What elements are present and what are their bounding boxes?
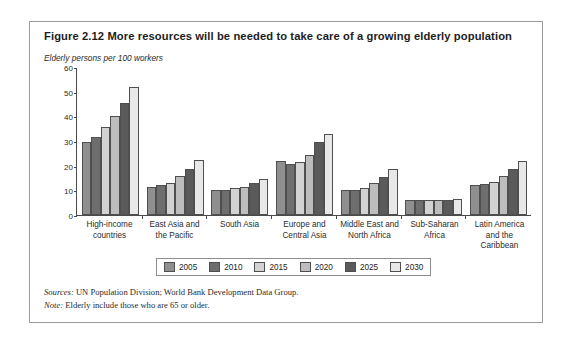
y-tick-mark <box>74 216 77 217</box>
bar-2015 <box>295 162 305 215</box>
legend-item[interactable]: 2015 <box>254 262 287 272</box>
bar-2030 <box>518 161 528 215</box>
x-axis-label: High-incomecountries <box>77 220 142 252</box>
x-axis-label: Europe andCentral Asia <box>272 220 337 252</box>
legend-swatch <box>254 262 265 272</box>
y-tick-label: 20 <box>53 162 73 171</box>
x-axis-label: South Asia <box>207 220 272 252</box>
bar-2005 <box>470 185 480 215</box>
y-tick-mark <box>74 117 77 118</box>
bar-2010 <box>350 190 360 215</box>
bar-2030 <box>129 87 139 215</box>
legend-swatch <box>209 262 220 272</box>
x-group-separator <box>142 215 143 219</box>
x-axis-labels: High-incomecountriesEast Asia andthe Pac… <box>77 220 532 252</box>
bar-2015 <box>424 200 434 215</box>
x-group-separator <box>401 215 402 219</box>
bar-group <box>337 68 402 215</box>
bar-group <box>402 68 467 215</box>
bar-2005 <box>211 190 221 215</box>
legend-swatch <box>390 262 401 272</box>
legend-label: 2020 <box>315 263 333 272</box>
y-tick-mark <box>74 167 77 168</box>
legend-item[interactable]: 2030 <box>390 262 423 272</box>
legend-label: 2015 <box>269 263 287 272</box>
note-text: Elderly include those who are 65 or olde… <box>63 300 209 310</box>
x-group-separator <box>465 215 466 219</box>
legend-swatch <box>300 262 311 272</box>
bar-2015 <box>166 183 176 215</box>
x-group-separator <box>271 215 272 219</box>
bar-2025 <box>249 183 259 215</box>
bar-2020 <box>175 176 185 215</box>
bar-group <box>272 68 337 215</box>
bar-2020 <box>110 116 120 215</box>
legend-label: 2025 <box>360 263 378 272</box>
axis-caption: Elderly persons per 100 workers <box>44 53 163 63</box>
legend-swatch <box>345 262 356 272</box>
note-line: Note: Elderly include those who are 65 o… <box>44 299 524 312</box>
bar-2020 <box>499 176 509 215</box>
x-axis-label: Latin Americaand the Caribbean <box>467 220 532 252</box>
bar-2005 <box>405 200 415 215</box>
bar-2015 <box>101 127 111 215</box>
bar-2010 <box>156 185 166 215</box>
bar-2025 <box>120 103 130 215</box>
y-tick-mark <box>74 191 77 192</box>
bar-2010 <box>415 200 425 215</box>
bar-group <box>207 68 272 215</box>
bar-2030 <box>388 169 398 215</box>
bar-2010 <box>91 137 101 215</box>
legend-label: 2005 <box>179 263 197 272</box>
chart-plot: 0102030405060 <box>76 68 531 216</box>
bar-2005 <box>82 142 92 215</box>
bar-2030 <box>324 134 334 215</box>
plot-area: 0102030405060 <box>76 68 531 216</box>
legend-item[interactable]: 2005 <box>164 262 197 272</box>
legend-item[interactable]: 2010 <box>209 262 242 272</box>
y-tick-mark <box>74 68 77 69</box>
x-axis-label: East Asia andthe Pacific <box>142 220 207 252</box>
bar-2020 <box>434 200 444 215</box>
x-group-separator <box>206 215 207 219</box>
sources-text: UN Population Division; World Bank Devel… <box>74 287 299 297</box>
bar-2025 <box>314 142 324 215</box>
y-tick-label: 50 <box>53 88 73 97</box>
bar-2025 <box>379 177 389 215</box>
sources-line: Sources: UN Population Division; World B… <box>44 286 524 299</box>
y-tick-mark <box>74 142 77 143</box>
bar-group <box>78 68 143 215</box>
bar-2005 <box>147 187 157 215</box>
y-tick-label: 0 <box>53 212 73 221</box>
legend-label: 2030 <box>405 263 423 272</box>
bar-2025 <box>443 200 453 215</box>
bar-2025 <box>508 169 518 215</box>
bar-2020 <box>305 155 315 215</box>
chart-legend: 200520102015202020252030 <box>156 258 431 276</box>
bar-2025 <box>185 169 195 215</box>
y-tick-label: 60 <box>53 64 73 73</box>
bar-2015 <box>230 188 240 215</box>
bar-2010 <box>221 190 231 215</box>
bar-2015 <box>360 188 370 215</box>
figure-footer: Sources: UN Population Division; World B… <box>44 286 524 311</box>
bar-group <box>143 68 208 215</box>
legend-swatch <box>164 262 175 272</box>
bar-2030 <box>259 179 269 215</box>
y-tick-mark <box>74 93 77 94</box>
y-tick-label: 40 <box>53 113 73 122</box>
figure-title: Figure 2.12 More resources will be neede… <box>44 30 524 42</box>
x-axis-label: Sub-SaharanAfrica <box>402 220 467 252</box>
bar-2020 <box>369 183 379 215</box>
bar-2030 <box>194 160 204 216</box>
sources-label: Sources: <box>44 287 74 297</box>
bar-2010 <box>286 164 296 215</box>
figure-frame: Figure 2.12 More resources will be neede… <box>29 21 543 323</box>
bar-2010 <box>480 184 490 215</box>
bar-groups <box>78 68 531 215</box>
y-tick-label: 30 <box>53 138 73 147</box>
y-tick-label: 10 <box>53 187 73 196</box>
bar-2020 <box>240 187 250 215</box>
legend-item[interactable]: 2025 <box>345 262 378 272</box>
legend-item[interactable]: 2020 <box>300 262 333 272</box>
